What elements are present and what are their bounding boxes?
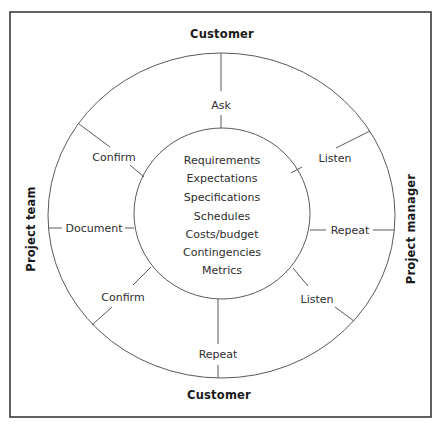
center-item: Metrics — [202, 264, 242, 277]
center-item: Contingencies — [183, 246, 261, 259]
spoke-label-upper-right: Listen — [319, 152, 352, 165]
spoke-label-bottom: Repeat — [199, 348, 238, 361]
center-item: Expectations — [186, 172, 257, 185]
center-items-list: Requirements Expectations Specifications… — [183, 154, 261, 277]
center-item: Schedules — [194, 210, 251, 223]
center-item: Specifications — [184, 191, 261, 204]
center-item: Costs/budget — [186, 228, 260, 241]
spoke-label-right: Repeat — [331, 224, 370, 237]
edge-label-bottom: Customer — [187, 388, 251, 402]
spoke-label-top: Ask — [211, 99, 231, 112]
spoke-label-upper-left: Confirm — [92, 151, 135, 164]
spoke-label-lower-right: Listen — [301, 293, 334, 306]
spoke-label-lower-left: Confirm — [101, 291, 144, 304]
edge-label-right: Project manager — [404, 174, 418, 285]
spoke-label-left: Document — [66, 222, 124, 235]
edge-label-top: Customer — [190, 27, 254, 41]
edge-label-left: Project team — [24, 186, 38, 272]
center-item: Requirements — [184, 154, 261, 167]
communication-diagram: Customer Customer Project team Project m… — [0, 0, 441, 430]
